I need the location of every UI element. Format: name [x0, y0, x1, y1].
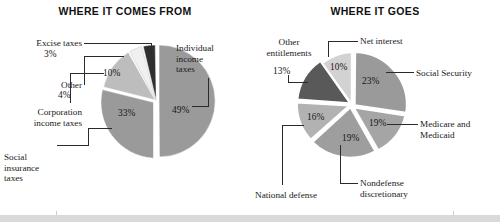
label-corporation-income-taxes: Corporation income taxes	[2, 107, 82, 128]
leader-individual-vertical	[208, 78, 209, 106]
leader-corporation-vertical	[70, 73, 71, 103]
leader-net-interest-vertical	[328, 41, 329, 57]
leader-national-defense-horizontal	[282, 125, 304, 126]
pct-social-security: 23%	[362, 76, 379, 86]
label-individual-income-taxes: Individual income taxes	[176, 43, 236, 75]
leader-excise-horizontal	[84, 43, 152, 44]
chart-panel-where-it-comes-from: WHERE IT COMES FROM 49% 33% 10% Excise t…	[0, 0, 250, 222]
leader-other-vertical	[84, 56, 85, 85]
leader-nondefense-horizontal	[340, 183, 358, 184]
footer-tick-left	[56, 211, 57, 215]
pct-excise-taxes: 3%	[44, 49, 57, 59]
pct-medicare-medicaid: 19%	[369, 118, 386, 128]
label-social-insurance-taxes: Social insurance taxes	[4, 152, 84, 184]
label-other-entitlements: Other entitlements	[250, 37, 328, 58]
leader-social-security-horizontal	[386, 72, 414, 73]
leader-net-interest-horizontal	[328, 41, 358, 42]
pct-social-insurance-taxes: 33%	[118, 108, 135, 118]
label-national-defense: National defense	[255, 190, 335, 201]
pct-net-interest: 10%	[330, 62, 347, 72]
label-medicare-medicaid: Medicare and Medicaid	[420, 119, 498, 140]
leader-medicare-horizontal	[387, 124, 418, 125]
pct-corporation-income-taxes: 10%	[103, 68, 120, 78]
figure-root: WHERE IT COMES FROM 49% 33% 10% Excise t…	[0, 0, 500, 222]
label-nondefense-discretionary: Nondefense discretionary	[360, 178, 430, 199]
leader-social-insurance-horizontal	[57, 145, 88, 146]
leader-nondefense-vertical	[340, 145, 341, 184]
chart-panel-where-it-goes: WHERE IT GOES 10% 23% 19% 19% 16	[250, 0, 500, 222]
leader-excise-vertical	[151, 43, 152, 55]
pct-national-defense: 16%	[307, 112, 324, 122]
pie-slice-social-insurance-taxes[interactable]	[101, 90, 154, 159]
pct-nondefense-discretionary: 19%	[342, 133, 359, 143]
leader-social-insurance-horizontal-2	[88, 128, 112, 129]
pct-individual-income-taxes: 49%	[172, 105, 189, 115]
footer-rule	[0, 215, 500, 222]
leader-other-horizontal	[84, 56, 124, 57]
pct-other: 4%	[58, 90, 71, 100]
leader-other-entitlements-horizontal	[288, 82, 308, 83]
label-social-security-text: Social Security	[416, 68, 498, 79]
leader-corporation-horizontal	[70, 73, 104, 74]
leader-social-insurance-vertical	[88, 128, 89, 146]
leader-national-defense-vertical	[282, 125, 283, 185]
label-net-interest: Net interest	[360, 36, 440, 47]
leader-individual-horizontal	[192, 106, 209, 107]
label-excise-taxes: Excise taxes	[6, 38, 82, 49]
footer-tick-right	[453, 211, 454, 215]
leader-other-entitlements-vertical	[288, 75, 289, 83]
